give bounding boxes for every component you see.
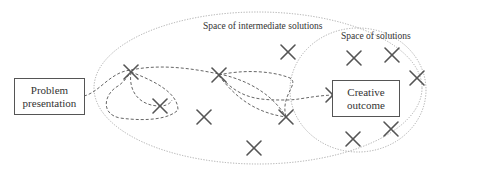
cross-icon — [347, 51, 361, 65]
cross-icon — [385, 48, 399, 62]
problem-label-line1: Problem — [23, 84, 77, 97]
cross-icon — [346, 132, 360, 146]
creative-process-diagram: Space of intermediate solutions Space of… — [0, 0, 482, 173]
intermediate-space-label: Space of intermediate solutions — [203, 21, 323, 31]
problem-presentation-box: Problem presentation — [14, 78, 85, 115]
solution-space-label: Space of solutions — [341, 31, 411, 41]
cross-icon — [410, 71, 424, 85]
cross-icon — [197, 110, 211, 124]
cross-icon — [247, 141, 261, 155]
outcome-label-line1: Creative — [347, 86, 385, 99]
cross-icon — [124, 65, 138, 79]
cross-icon — [279, 110, 293, 124]
problem-label-line2: presentation — [23, 97, 77, 110]
cross-icon — [384, 122, 398, 136]
creative-outcome-box: Creative outcome — [332, 80, 400, 117]
outcome-label-line2: outcome — [347, 99, 385, 112]
cross-icon — [281, 45, 295, 59]
